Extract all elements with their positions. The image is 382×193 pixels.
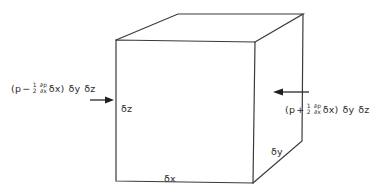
cube-top-face [116,14,303,42]
right-derivative-fraction: ∂p ∂x [313,103,321,116]
right-force-arrow [273,89,309,96]
left-coefficient-fraction: 1 2 [32,82,37,95]
dz-label: δz [121,104,132,114]
cube-front-face [116,40,255,183]
right-deriv-den: ∂x [313,109,321,115]
right-open: (p [285,104,295,115]
left-tail: δx) [49,83,65,94]
right-area2: δz [358,104,369,115]
right-coef-den: 2 [306,109,311,115]
left-open: (p [11,83,21,94]
left-area1: δy [68,83,80,94]
cube-diagram [0,0,382,193]
left-deriv-den: ∂x [39,88,47,94]
left-derivative-fraction: ∂p ∂x [39,82,47,95]
left-coef-den: 2 [32,88,37,94]
right-area1: δy [342,104,354,115]
right-coefficient-fraction: 1 2 [306,103,311,116]
left-force-expression: (p − 1 2 ∂p ∂x δx) δy δz [11,80,95,96]
left-force-arrow [90,97,114,104]
dx-label: δx [164,174,176,184]
right-force-expression: (p + 1 2 ∂p ∂x δx) δy δz [285,101,369,117]
left-sign: − [22,83,30,94]
dy-label: δy [271,147,283,157]
right-tail: δx) [323,104,339,115]
left-area2: δz [84,83,95,94]
right-sign: + [296,104,304,115]
